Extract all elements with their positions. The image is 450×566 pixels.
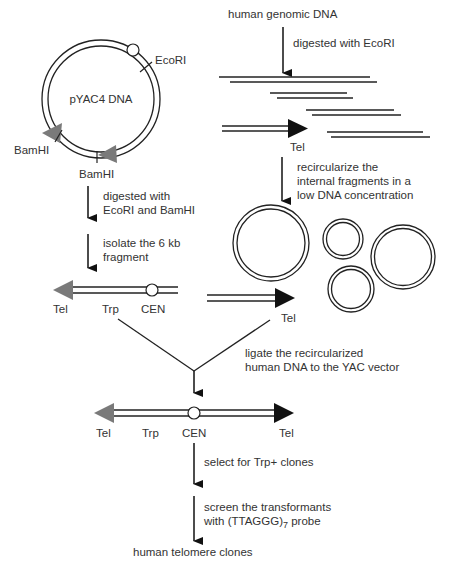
construct-cen: CEN [182, 427, 206, 439]
left-arm-trp-label: Trp [102, 303, 119, 315]
ecori-label: EcoRI [155, 54, 186, 66]
circular-dna [323, 219, 363, 259]
left-arm-cen-label: CEN [141, 303, 165, 315]
diagram: EcoRI pYAC4 DNA BamHI BamHI digested wit… [0, 0, 450, 566]
step-isolate-line2: fragment [103, 251, 149, 263]
plasmid-pyac4: EcoRI pYAC4 DNA BamHI BamHI [14, 40, 186, 180]
tel-triangle-left-icon [42, 123, 62, 143]
left-arm-tel-label: Tel [53, 303, 68, 315]
result-label: human telomere clones [133, 546, 253, 558]
ligate-line1: ligate the recircularized [245, 347, 363, 359]
bamhi-label-2: BamHI [79, 168, 114, 180]
select-label: select for Trp+ clones [204, 456, 314, 468]
step-digest-line1: digested with [103, 190, 170, 202]
tel-triangle-black-icon [288, 119, 308, 138]
tel-triangle-black-icon [275, 288, 295, 308]
tel-triangle-grey-icon [53, 280, 73, 300]
plasmid-name: pYAC4 DNA [69, 93, 132, 105]
human-digest-label: digested with EcoRI [293, 37, 395, 49]
recirc-line1: recircularize the [297, 161, 378, 173]
yac-right-arm: Tel [207, 288, 296, 324]
construct-tel-right: Tel [279, 427, 294, 439]
circular-dna [328, 266, 374, 312]
yac-left-arm: Tel Trp CEN [53, 280, 178, 315]
recircularized-fragments [233, 205, 435, 312]
cen-marker-icon [188, 407, 200, 419]
cen-marker-icon [146, 284, 158, 296]
tel-triangle-grey-icon [94, 403, 114, 423]
merge-line-left [118, 319, 194, 371]
step-isolate-line1: isolate the 6 kb [103, 237, 180, 249]
circular-dna [233, 205, 309, 281]
ligate-line2: human DNA to the YAC vector [245, 361, 399, 373]
construct-trp: Trp [142, 427, 159, 439]
screen-line2: with (TTAGGG)7 probe [203, 515, 321, 530]
recirc-line2: internal fragments in a [297, 175, 411, 187]
yac-cloning-diagram: EcoRI pYAC4 DNA BamHI BamHI digested wit… [0, 0, 450, 566]
human-tel-label: Tel [290, 141, 305, 153]
yac-construct: Tel Trp CEN Tel [94, 403, 294, 439]
bamhi-label-1: BamHI [14, 144, 49, 156]
right-arm-tel-label: Tel [281, 312, 296, 324]
human-tel-fragment: Tel [222, 119, 308, 153]
circular-dna [371, 225, 435, 289]
screen-line1: screen the transformants [204, 501, 331, 513]
ecori-fragments [219, 77, 430, 137]
tel-triangle-bottom-icon [98, 145, 117, 163]
construct-tel-left: Tel [96, 427, 111, 439]
recirc-line3: low DNA concentration [297, 189, 413, 201]
cen-marker-icon [127, 44, 139, 56]
tel-triangle-black-icon [274, 403, 294, 423]
step-digest-line2: EcoRI and BamHI [103, 204, 195, 216]
human-dna-title: human genomic DNA [228, 8, 338, 20]
